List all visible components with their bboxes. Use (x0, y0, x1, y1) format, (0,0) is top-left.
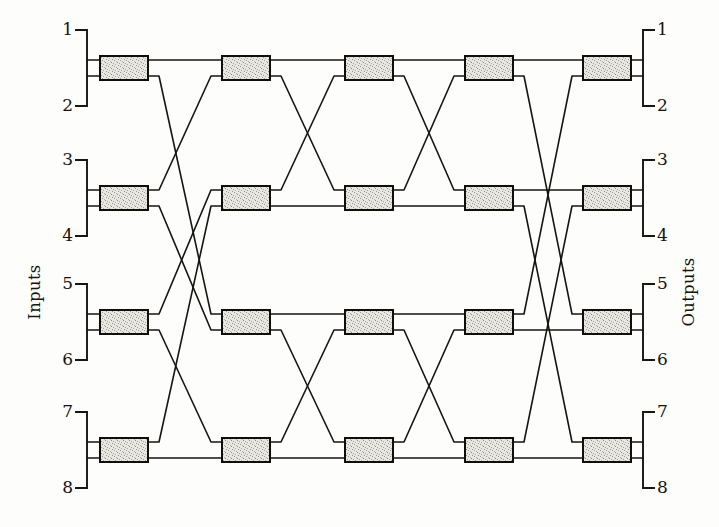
output-port-number: 6 (657, 349, 668, 369)
switch-box-body[interactable] (100, 438, 148, 462)
switch-boxes (100, 56, 631, 462)
port-numbers: 1234567812345678 (62, 19, 668, 497)
switch-box-body[interactable] (583, 56, 631, 80)
switch-box-body[interactable] (222, 438, 270, 462)
switch-box-body[interactable] (100, 56, 148, 80)
output-port-number: 3 (657, 149, 668, 169)
switch-box[interactable] (100, 438, 148, 462)
inputs-axis-label: Inputs (25, 264, 44, 319)
output-port-number: 7 (657, 401, 668, 421)
link-wire (393, 330, 465, 442)
switch-box[interactable] (345, 56, 393, 80)
switch-box[interactable] (100, 310, 148, 334)
input-bracket (75, 412, 87, 488)
benes-network-svg: 1234567812345678 Inputs Outputs (0, 0, 719, 527)
switch-box[interactable] (222, 56, 270, 80)
link-wire (148, 330, 222, 442)
interconnect-wires (148, 60, 583, 458)
input-port-number: 6 (62, 349, 73, 369)
switch-box[interactable] (583, 310, 631, 334)
switch-box[interactable] (222, 186, 270, 210)
output-port-number: 2 (657, 95, 668, 115)
input-port-number: 5 (62, 273, 73, 293)
switch-box-body[interactable] (465, 438, 513, 462)
input-bracket (75, 284, 87, 360)
switch-box[interactable] (465, 186, 513, 210)
link-wire (513, 76, 583, 314)
diagram-canvas: 1234567812345678 Inputs Outputs (0, 0, 719, 527)
output-port-number: 5 (657, 273, 668, 293)
switch-box-body[interactable] (465, 56, 513, 80)
link-wire (148, 76, 222, 314)
outputs-axis-label: Outputs (679, 257, 698, 326)
switch-box[interactable] (345, 438, 393, 462)
switch-box[interactable] (465, 438, 513, 462)
outputs-label-text: Outputs (679, 257, 698, 326)
switch-box[interactable] (583, 56, 631, 80)
switch-box-body[interactable] (345, 438, 393, 462)
switch-box-body[interactable] (583, 310, 631, 334)
switch-box-body[interactable] (222, 56, 270, 80)
switch-box[interactable] (222, 310, 270, 334)
switch-box-body[interactable] (465, 310, 513, 334)
switch-box-body[interactable] (345, 186, 393, 210)
switch-box-body[interactable] (583, 186, 631, 210)
output-bracket (643, 30, 655, 106)
input-port-number: 4 (62, 225, 73, 245)
switch-box[interactable] (583, 186, 631, 210)
input-port-number: 2 (62, 95, 73, 115)
switch-box-body[interactable] (583, 438, 631, 462)
input-port-number: 8 (62, 477, 73, 497)
switch-box[interactable] (345, 310, 393, 334)
input-port-number: 1 (62, 19, 73, 39)
input-bracket (75, 160, 87, 236)
switch-box[interactable] (465, 56, 513, 80)
switch-box-body[interactable] (100, 186, 148, 210)
switch-box-body[interactable] (345, 310, 393, 334)
link-wire (148, 206, 222, 442)
switch-box-body[interactable] (345, 56, 393, 80)
inputs-label-text: Inputs (25, 264, 44, 319)
output-port-number: 4 (657, 225, 668, 245)
output-port-number: 1 (657, 19, 668, 39)
switch-box[interactable] (100, 56, 148, 80)
switch-box-body[interactable] (100, 310, 148, 334)
output-bracket (643, 284, 655, 360)
link-wire (393, 76, 465, 190)
output-bracket (643, 160, 655, 236)
switch-box-body[interactable] (465, 186, 513, 210)
output-port-number: 8 (657, 477, 668, 497)
switch-box-body[interactable] (222, 186, 270, 210)
switch-box[interactable] (100, 186, 148, 210)
output-bracket (643, 412, 655, 488)
switch-box[interactable] (222, 438, 270, 462)
io-stub-wires (87, 60, 643, 458)
link-wire (148, 76, 222, 190)
switch-box-body[interactable] (222, 310, 270, 334)
switch-box[interactable] (345, 186, 393, 210)
input-bracket (75, 30, 87, 106)
input-port-number: 3 (62, 149, 73, 169)
input-port-number: 7 (62, 401, 73, 421)
link-wire (270, 330, 345, 442)
link-wire (270, 76, 345, 190)
switch-box[interactable] (583, 438, 631, 462)
switch-box[interactable] (465, 310, 513, 334)
link-wire (513, 206, 583, 442)
